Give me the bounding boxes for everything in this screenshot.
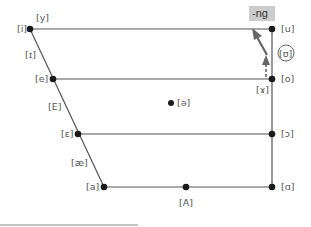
arrow-to-ng-shaft <box>257 37 267 55</box>
arrow-to-ng-head-icon <box>252 28 262 40</box>
dot-epsilon <box>75 131 82 138</box>
dot-A <box>183 184 190 191</box>
dot-alpha <box>269 184 276 191</box>
ng-label: -ng <box>252 7 268 19</box>
dashed-arrow-head-icon <box>262 55 270 65</box>
label-e: [e] <box>35 73 48 84</box>
dot-i <box>27 26 34 33</box>
label-A: [A] <box>179 197 193 208</box>
label-o: [o] <box>281 73 294 84</box>
arrows <box>252 28 270 77</box>
label-small-cap-i: [ɪ] <box>25 49 36 60</box>
vowel-labels: [y] [i] [ɪ] [e] [E] [ɛ] [æ] [a] [A] [ɑ] … <box>17 12 294 208</box>
label-ae: [æ] <box>71 157 88 168</box>
dot-open-o <box>269 131 276 138</box>
label-E: [E] <box>48 101 61 112</box>
dot-a <box>101 184 108 191</box>
quadrilateral-lines <box>30 29 272 187</box>
vowel-dots <box>27 26 276 191</box>
label-upsilon: [ʊ] <box>279 48 292 59</box>
label-i: [i] <box>17 23 27 34</box>
label-epsilon: [ɛ] <box>61 128 74 139</box>
label-u: [u] <box>281 23 294 34</box>
dot-e <box>50 76 57 83</box>
dot-u <box>269 26 276 33</box>
dot-schwa <box>168 100 174 106</box>
vowel-diagram: -ng [y] [i] [ɪ] [e] [E] [ɛ] [æ] [a] [A] … <box>0 0 311 227</box>
front-slope-line <box>30 29 104 187</box>
dot-o <box>269 76 276 83</box>
label-open-o: [ɔ] <box>281 128 294 139</box>
label-schwa: [ə] <box>177 97 190 108</box>
label-ram-horn: [ɤ] <box>256 84 269 95</box>
label-alpha: [ɑ] <box>281 181 294 192</box>
label-y: [y] <box>36 12 49 23</box>
label-a: [a] <box>86 181 99 192</box>
